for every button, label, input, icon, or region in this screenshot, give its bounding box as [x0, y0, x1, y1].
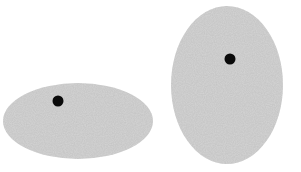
horizontal-ellipse-dot	[53, 96, 64, 107]
figure-svg	[0, 0, 301, 172]
horizontal-ellipse	[3, 83, 153, 159]
vertical-ellipse	[171, 6, 283, 164]
horizontal-ellipse-group	[3, 83, 153, 159]
vertical-ellipse-dot	[225, 54, 236, 65]
vertical-ellipse-group	[171, 6, 283, 164]
canvas	[0, 0, 301, 172]
